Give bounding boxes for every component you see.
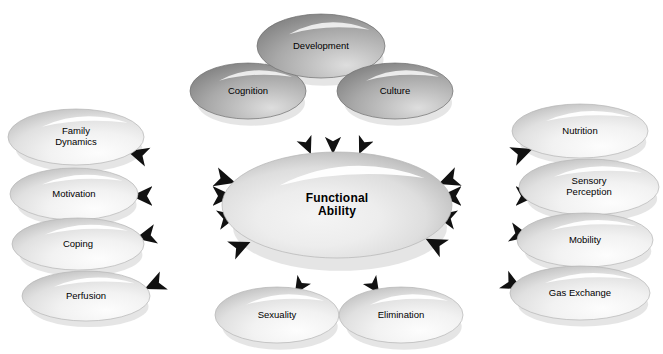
arrow-center-mobility-shaft: [438, 216, 528, 236]
node-coping[interactable]: [12, 218, 144, 270]
node-perfusion[interactable]: [22, 271, 150, 321]
node-nutrition[interactable]: [512, 104, 648, 158]
arrow-center-mobility: [438, 216, 528, 236]
node-culture[interactable]: [337, 63, 453, 119]
node-elimination[interactable]: [339, 287, 463, 343]
ellipse-layer: [8, 14, 659, 343]
arrow-cognition-to-center: [292, 110, 310, 152]
arrow-center-perfusion: [147, 243, 248, 288]
arrow-center-nutrition-shaft: [441, 150, 530, 183]
node-sensory-perception[interactable]: [519, 159, 659, 215]
arrow-center-family-dynamics-shaft: [130, 152, 233, 182]
node-family-dynamics[interactable]: [8, 109, 144, 165]
node-functional-ability[interactable]: [222, 152, 452, 258]
node-gas-exchange[interactable]: [510, 266, 650, 320]
concept-map-diagram: CognitionDevelopmentCultureFamily Dynami…: [0, 0, 663, 354]
arrow-center-nutrition: [441, 150, 530, 183]
node-sexuality[interactable]: [215, 287, 339, 343]
arrow-cognition-to-center-shaft: [292, 110, 310, 152]
arrow-center-coping-shaft: [138, 216, 236, 238]
arrow-center-gas-exchange: [428, 240, 520, 288]
arrow-center-gas-exchange-shaft: [428, 240, 520, 288]
arrow-center-coping: [138, 216, 236, 238]
arrow-center-family-dynamics: [130, 152, 233, 182]
node-mobility[interactable]: [517, 213, 653, 267]
node-motivation[interactable]: [10, 168, 138, 220]
diagram-canvas: [0, 0, 663, 354]
arrow-center-perfusion-shaft: [147, 243, 248, 288]
